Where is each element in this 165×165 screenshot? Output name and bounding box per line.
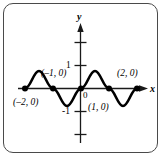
graph-canvas — [0, 0, 165, 165]
point-label-neg1: (–1, 0) — [41, 69, 66, 79]
point-label-1: (1, 0) — [88, 103, 109, 113]
marker-2 — [134, 86, 140, 92]
x-axis-label: x — [150, 84, 155, 94]
y-tick-label-neg1: -1 — [62, 107, 70, 117]
origin-label: 0 — [83, 91, 88, 100]
y-axis-label: y — [77, 12, 81, 22]
point-label-2: (2, 0) — [117, 69, 138, 79]
y-axis-arrow — [77, 23, 83, 32]
marker-neg1 — [50, 86, 56, 92]
point-label-neg2: (–2, 0) — [13, 98, 38, 108]
marker-1 — [106, 86, 112, 92]
marker-neg2 — [22, 86, 28, 92]
y-tick-label-1: 1 — [66, 61, 71, 71]
x-axis-arrow — [139, 85, 148, 91]
